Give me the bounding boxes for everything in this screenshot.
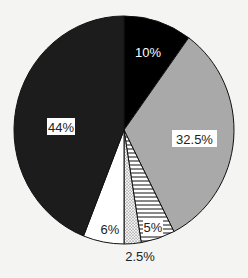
slice-label-2-5: 2.5% (125, 249, 155, 264)
slice-label-32-5: 32.5% (176, 132, 213, 147)
slice-label-5: 5% (144, 220, 163, 235)
slice-label-6: 6% (101, 222, 120, 237)
pie-chart: 10% 32.5% 5% 2.5% 6% 44% (0, 0, 248, 278)
slice-label-10: 10% (135, 45, 161, 60)
slice-label-44: 44% (48, 120, 74, 135)
